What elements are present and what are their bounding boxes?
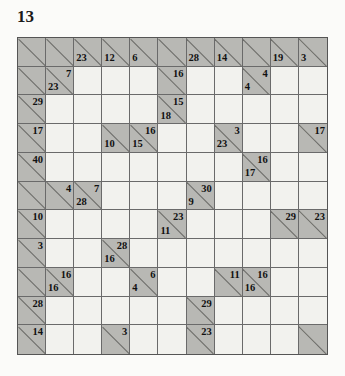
entry-cell[interactable]: [102, 67, 130, 96]
entry-cell[interactable]: [74, 124, 102, 153]
down-clue-number: 28: [33, 299, 44, 310]
entry-cell[interactable]: [299, 268, 327, 297]
entry-cell[interactable]: [243, 210, 271, 239]
entry-cell[interactable]: [130, 182, 158, 211]
clue-cell: 14: [18, 325, 46, 354]
entry-cell[interactable]: [215, 210, 243, 239]
entry-cell[interactable]: [158, 325, 186, 354]
down-clue-number: 4: [263, 69, 268, 80]
entry-cell[interactable]: [74, 325, 102, 354]
entry-cell[interactable]: [102, 153, 130, 182]
entry-cell[interactable]: [158, 297, 186, 326]
entry-cell[interactable]: [215, 182, 243, 211]
down-clue-number: 29: [201, 299, 212, 310]
entry-cell[interactable]: [46, 153, 74, 182]
entry-cell[interactable]: [187, 210, 215, 239]
clue-cell: 17: [18, 124, 46, 153]
clue-cell: 10: [102, 124, 130, 153]
entry-cell[interactable]: [299, 95, 327, 124]
entry-cell[interactable]: [271, 95, 299, 124]
entry-cell[interactable]: [130, 67, 158, 96]
down-clue-number: 16: [257, 155, 268, 166]
entry-cell[interactable]: [158, 124, 186, 153]
entry-cell[interactable]: [271, 297, 299, 326]
entry-cell[interactable]: [74, 268, 102, 297]
entry-cell[interactable]: [215, 67, 243, 96]
entry-cell[interactable]: [187, 67, 215, 96]
entry-cell[interactable]: [46, 297, 74, 326]
entry-cell[interactable]: [299, 239, 327, 268]
entry-cell[interactable]: [158, 268, 186, 297]
entry-cell[interactable]: [187, 124, 215, 153]
entry-cell[interactable]: [271, 325, 299, 354]
entry-cell[interactable]: [187, 268, 215, 297]
entry-cell[interactable]: [46, 210, 74, 239]
entry-cell[interactable]: [130, 297, 158, 326]
entry-cell[interactable]: [215, 153, 243, 182]
entry-cell[interactable]: [158, 239, 186, 268]
entry-cell[interactable]: [102, 297, 130, 326]
across-clue-number: 28: [76, 197, 87, 208]
entry-cell[interactable]: [299, 67, 327, 96]
entry-cell[interactable]: [158, 182, 186, 211]
entry-cell[interactable]: [130, 239, 158, 268]
entry-cell[interactable]: [243, 124, 271, 153]
entry-cell[interactable]: [74, 153, 102, 182]
clue-cell: 28: [187, 38, 215, 67]
down-clue-number: 40: [33, 155, 44, 166]
entry-cell[interactable]: [158, 153, 186, 182]
kakuro-grid: 2312628141937231644291518171016153231740…: [17, 37, 328, 355]
entry-cell[interactable]: [243, 182, 271, 211]
entry-cell[interactable]: [187, 239, 215, 268]
entry-cell[interactable]: [271, 153, 299, 182]
entry-cell[interactable]: [74, 210, 102, 239]
entry-cell[interactable]: [130, 210, 158, 239]
entry-cell[interactable]: [299, 182, 327, 211]
clue-cell: [46, 38, 74, 67]
entry-cell[interactable]: [187, 153, 215, 182]
entry-cell[interactable]: [271, 182, 299, 211]
entry-cell[interactable]: [46, 124, 74, 153]
entry-cell[interactable]: [74, 297, 102, 326]
entry-cell[interactable]: [74, 67, 102, 96]
entry-cell[interactable]: [243, 239, 271, 268]
entry-cell[interactable]: [215, 239, 243, 268]
entry-cell[interactable]: [102, 268, 130, 297]
entry-cell[interactable]: [271, 268, 299, 297]
entry-cell[interactable]: [215, 297, 243, 326]
entry-cell[interactable]: [130, 153, 158, 182]
entry-cell[interactable]: [215, 325, 243, 354]
entry-cell[interactable]: [299, 297, 327, 326]
across-clue-number: 18: [160, 111, 171, 122]
entry-cell[interactable]: [243, 325, 271, 354]
entry-cell[interactable]: [243, 95, 271, 124]
entry-cell[interactable]: [215, 95, 243, 124]
entry-cell[interactable]: [271, 239, 299, 268]
clue-cell: 1616: [243, 268, 271, 297]
entry-cell[interactable]: [102, 210, 130, 239]
clue-cell: 4: [46, 182, 74, 211]
entry-cell[interactable]: [46, 95, 74, 124]
entry-cell[interactable]: [46, 239, 74, 268]
entry-cell[interactable]: [102, 182, 130, 211]
across-clue-number: 14: [217, 53, 228, 64]
entry-cell[interactable]: [271, 67, 299, 96]
page-title: 13: [17, 7, 34, 27]
entry-cell[interactable]: [243, 297, 271, 326]
clue-cell: 2311: [158, 210, 186, 239]
across-clue-number: 16: [104, 254, 115, 265]
entry-cell[interactable]: [187, 95, 215, 124]
entry-cell[interactable]: [130, 325, 158, 354]
across-clue-number: 10: [104, 139, 115, 150]
entry-cell[interactable]: [102, 95, 130, 124]
entry-cell[interactable]: [46, 325, 74, 354]
entry-cell[interactable]: [130, 95, 158, 124]
entry-cell[interactable]: [74, 95, 102, 124]
down-clue-number: 3: [122, 327, 127, 338]
entry-cell[interactable]: [299, 153, 327, 182]
clue-cell: 2816: [102, 239, 130, 268]
clue-cell: 1616: [46, 268, 74, 297]
entry-cell[interactable]: [271, 124, 299, 153]
down-clue-number: 14: [33, 327, 44, 338]
entry-cell[interactable]: [74, 239, 102, 268]
